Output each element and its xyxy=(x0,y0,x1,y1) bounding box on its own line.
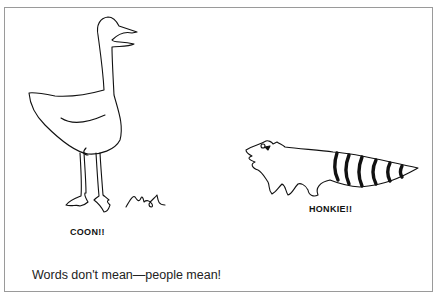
goose-drawing xyxy=(29,17,165,212)
goose-label: COON!! xyxy=(70,227,105,237)
caption: Words don't mean—people mean! xyxy=(32,268,221,282)
illustration-drawing xyxy=(0,0,435,298)
raccoon-label: HONKIE!! xyxy=(309,204,352,214)
raccoon-drawing xyxy=(246,141,418,196)
